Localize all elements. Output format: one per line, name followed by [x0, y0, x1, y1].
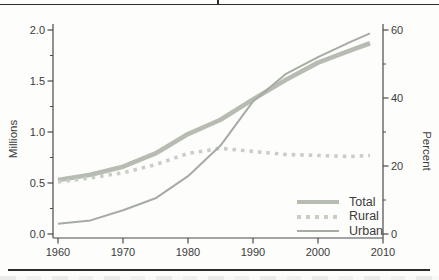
- svg-text:1970: 1970: [111, 246, 135, 258]
- svg-text:2000: 2000: [306, 246, 330, 258]
- svg-text:1.5: 1.5: [30, 75, 45, 87]
- svg-text:1990: 1990: [241, 246, 265, 258]
- right-axis-title: Percent: [421, 131, 433, 171]
- top-center-tick: [217, 0, 219, 4]
- chart-page: 0.00.51.01.52.00204060196019701980199020…: [0, 0, 439, 280]
- svg-text:2010: 2010: [371, 246, 395, 258]
- svg-text:2.0: 2.0: [30, 24, 45, 36]
- top-rule: [0, 4, 439, 6]
- chart-area: 0.00.51.01.52.00204060196019701980199020…: [0, 8, 439, 266]
- total-line-sample: [297, 200, 339, 205]
- legend-item-rural: Rural: [297, 212, 383, 222]
- rural-line-sample: [297, 215, 339, 219]
- svg-text:1960: 1960: [46, 246, 70, 258]
- svg-text:1.0: 1.0: [30, 126, 45, 138]
- svg-text:40: 40: [391, 92, 403, 104]
- scan-artifact: [0, 276, 439, 280]
- bottom-rule: [8, 269, 430, 271]
- left-axis-title: Millions: [7, 120, 19, 158]
- legend: Total Rural Urban: [297, 197, 383, 236]
- svg-text:0: 0: [391, 228, 397, 240]
- svg-text:20: 20: [391, 160, 403, 172]
- legend-label-total: Total: [349, 196, 375, 209]
- svg-text:0.0: 0.0: [30, 228, 45, 240]
- legend-label-rural: Rural: [349, 210, 379, 223]
- svg-text:60: 60: [391, 24, 403, 36]
- svg-text:1980: 1980: [176, 246, 200, 258]
- legend-item-urban: Urban: [297, 226, 383, 236]
- urban-line-sample: [297, 230, 339, 232]
- svg-text:0.5: 0.5: [30, 177, 45, 189]
- legend-item-total: Total: [297, 197, 383, 207]
- legend-label-urban: Urban: [349, 225, 383, 238]
